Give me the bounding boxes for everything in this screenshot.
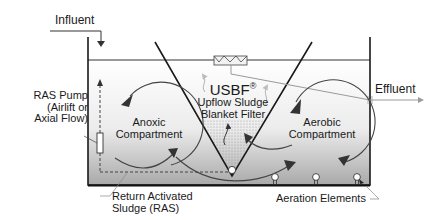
usbf-sub1: Upflow Sludge [190,97,276,109]
usbf-label: USBF® Upflow Sludge Blanket Filter [190,82,276,120]
influent-label: Influent [55,14,94,27]
influent-arrow-icon [97,41,105,47]
weir [214,56,247,65]
anoxic-label: Anoxic Compartment [109,117,189,140]
aeration-label: Aeration Elements [276,193,366,205]
ras-pump-line3: Axial Flow) [30,113,88,125]
registered-mark: ® [250,81,257,91]
ras-line2: Sludge (RAS) [112,203,193,215]
aerobic-line2: Compartment [282,129,362,141]
effluent-arrow-icon [418,97,424,103]
ras-pump-label: RAS Pump (Airlift or Axial Flow) [30,90,88,125]
ras-intake-icon [228,166,235,173]
aerobic-line1: Aerobic [282,117,362,129]
aerobic-label: Aerobic Compartment [282,117,362,140]
usbf-sub2: Blanket Filter [190,109,276,121]
ras-label: Return Activated Sludge (RAS) [112,191,193,214]
influent-pipe [50,31,101,41]
anoxic-line2: Compartment [109,129,189,141]
effluent-label: Effluent [375,83,415,96]
ras-pump-line1: RAS Pump [30,90,88,102]
anoxic-line1: Anoxic [109,117,189,129]
ras-pump-icon [97,133,103,153]
aeration-leader [366,186,379,199]
ras-line1: Return Activated [112,191,193,203]
